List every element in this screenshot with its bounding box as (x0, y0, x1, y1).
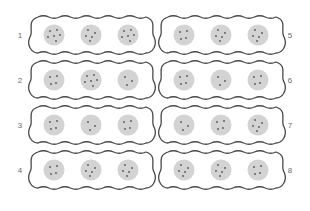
dot (124, 164, 126, 166)
group-label: 2 (18, 76, 23, 85)
cell-circle (118, 25, 139, 46)
dot (187, 125, 189, 127)
cell-circle (211, 160, 232, 181)
cell-circle (44, 115, 65, 136)
dot (129, 40, 131, 42)
dot (55, 172, 57, 174)
dot (131, 167, 133, 169)
dot (49, 121, 51, 123)
dot (91, 171, 93, 173)
dot (126, 84, 128, 86)
group-label: 7 (288, 121, 293, 130)
dot (258, 36, 260, 38)
group-label: 6 (288, 76, 293, 85)
dot (219, 84, 221, 86)
dot (122, 170, 124, 172)
cell-circle (248, 25, 269, 46)
dot (55, 40, 57, 42)
cell-circle (81, 115, 102, 136)
dot (256, 40, 258, 42)
dot (59, 34, 61, 36)
cell-circle (44, 160, 65, 181)
dot (49, 166, 51, 168)
dot (124, 76, 126, 78)
dot (123, 121, 125, 123)
dot (49, 76, 51, 78)
cell-circle (211, 70, 232, 91)
dot (217, 164, 219, 166)
dot (130, 29, 132, 31)
dot (84, 81, 86, 83)
dot (254, 119, 256, 121)
dot (180, 121, 182, 123)
dot (47, 36, 49, 38)
dot (185, 37, 187, 39)
dot (93, 74, 95, 76)
dot (92, 85, 94, 87)
dot (56, 75, 58, 77)
dot (215, 170, 217, 172)
dot (180, 164, 182, 166)
dot (253, 166, 255, 168)
dot (121, 36, 123, 38)
dot (224, 167, 226, 169)
dot (217, 76, 219, 78)
group-2: 2 (18, 61, 156, 100)
dot (90, 80, 92, 82)
dot (124, 128, 126, 130)
dot (261, 122, 263, 124)
group-label: 3 (18, 121, 23, 130)
dot (224, 32, 226, 34)
cell-circle (174, 115, 195, 136)
cell-circle (81, 25, 102, 46)
dot (215, 35, 217, 37)
dot (55, 127, 57, 129)
dot (94, 125, 96, 127)
dot (56, 29, 58, 31)
dot (130, 120, 132, 122)
dot (221, 171, 223, 173)
group-4: 4 (18, 151, 156, 190)
cell-circle (81, 70, 102, 91)
dot (252, 125, 254, 127)
group-6: 6 (159, 61, 293, 100)
dot (128, 171, 130, 173)
dot (179, 76, 181, 78)
dot (127, 35, 129, 37)
group-8: 8 (159, 151, 293, 190)
group-5: 5 (159, 16, 293, 55)
dot (55, 82, 57, 84)
group-label: 1 (18, 31, 23, 40)
dot (89, 129, 91, 131)
dot (85, 170, 87, 172)
dot (217, 128, 219, 130)
dot (222, 127, 224, 129)
dot (186, 30, 188, 32)
dot (223, 120, 225, 122)
dot (254, 173, 256, 175)
dot (186, 75, 188, 77)
cell-circle (44, 25, 65, 46)
dot (221, 36, 223, 38)
cell-circle (174, 160, 195, 181)
group-label: 8 (288, 166, 293, 175)
dot (96, 79, 98, 81)
dot (224, 80, 226, 82)
cell-circle (174, 70, 195, 91)
dot (259, 82, 261, 84)
cell-circle (118, 160, 139, 181)
dot (260, 75, 262, 77)
dot (133, 34, 135, 36)
dot (179, 31, 181, 33)
dot (258, 126, 260, 128)
dot (187, 167, 189, 169)
dot (94, 167, 96, 169)
dot (180, 83, 182, 85)
dot (180, 38, 182, 40)
cell-circle (118, 70, 139, 91)
cell-circle (118, 115, 139, 136)
dot (50, 128, 52, 130)
cell-circle (248, 70, 269, 91)
dot (217, 29, 219, 31)
dot (56, 165, 58, 167)
